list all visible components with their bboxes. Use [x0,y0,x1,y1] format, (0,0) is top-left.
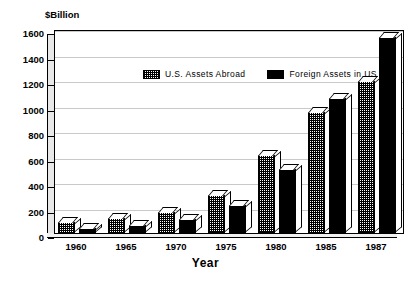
y-axis-label: 200 [2,208,44,218]
y-axis-tick [48,60,54,61]
x-axis-label-1987: 1987 [365,241,386,252]
y-axis-tick [48,162,54,163]
bar-1987-series-0 [358,81,375,233]
y-axis-tick [48,34,54,35]
y-axis-label: 1000 [2,106,44,116]
plot-area: U.S. Assets Abroad Foreign Assets in US [54,30,404,234]
y-axis-label: 1400 [2,55,44,65]
solid-black-swatch-icon [267,70,284,79]
y-axis-label: 1600 [2,29,44,39]
y-axis-tick [48,238,54,239]
legend: U.S. Assets Abroad Foreign Assets in US [143,69,399,79]
legend-item-us-assets-abroad: U.S. Assets Abroad [143,69,245,79]
legend-label-us-assets-abroad: U.S. Assets Abroad [165,69,245,79]
y-axis-tick [48,187,54,188]
bar-1987-series-1 [379,37,396,233]
y-axis-tick [48,136,54,137]
legend-label-foreign-assets-in-us: Foreign Assets in US [289,69,376,79]
x-axis-label-1975: 1975 [215,241,236,252]
y-axis-tick [48,213,54,214]
x-axis-label-1980: 1980 [265,241,286,252]
y-axis-label: 0 [2,233,44,243]
x-axis-title: Year [0,256,411,270]
y-axis-unit-title: $Billion [45,9,79,20]
bar-group-1987 [55,29,405,233]
x-axis-label-1960: 1960 [65,241,86,252]
x-axis-label-1965: 1965 [115,241,136,252]
x-axis-label-1985: 1985 [315,241,336,252]
y-axis-label: 600 [2,157,44,167]
y-axis-tick [48,111,54,112]
bar-chart: $Billion U.S. Assets Abroad Foreign Asse… [0,0,411,287]
y-axis-label: 800 [2,131,44,141]
y-axis-tick [48,85,54,86]
y-axis-label: 400 [2,182,44,192]
x-axis-label-1970: 1970 [165,241,186,252]
legend-item-foreign-assets-in-us: Foreign Assets in US [267,69,376,79]
bar-side-face [396,33,402,232]
y-axis-label: 1200 [2,80,44,90]
hatched-swatch-icon [143,70,160,79]
